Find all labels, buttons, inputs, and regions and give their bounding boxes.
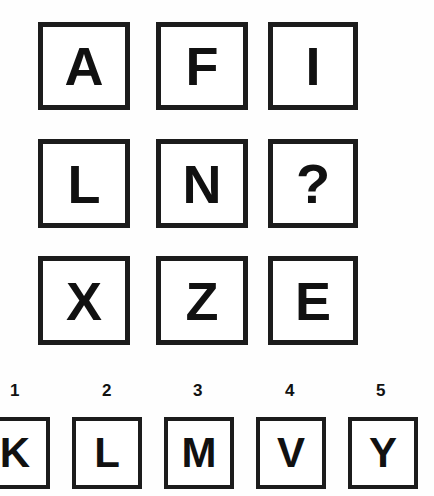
- option-label: K: [0, 432, 30, 474]
- matrix-cell-label: F: [186, 39, 219, 93]
- option-label: L: [94, 432, 120, 474]
- matrix-cell-label: X: [66, 274, 102, 328]
- matrix-cell-r2c1[interactable]: L: [38, 139, 130, 228]
- option-number-5: 5: [376, 382, 416, 399]
- matrix-cell-r1c1[interactable]: A: [38, 22, 130, 110]
- matrix-cell-r1c3[interactable]: I: [268, 22, 358, 110]
- option-box-4[interactable]: V: [256, 417, 326, 489]
- matrix-cell-r3c1[interactable]: X: [38, 256, 130, 345]
- option-box-2[interactable]: L: [72, 417, 142, 489]
- matrix-cell-label: Z: [186, 274, 219, 328]
- matrix-cell-r3c3[interactable]: E: [268, 256, 358, 345]
- puzzle-page: A F I L N ? X Z E 1 2 3: [0, 0, 434, 496]
- option-box-3[interactable]: M: [164, 417, 234, 489]
- matrix-cell-r1c2[interactable]: F: [156, 22, 248, 110]
- matrix-cell-label: E: [295, 274, 331, 328]
- option-number-3: 3: [193, 382, 233, 399]
- matrix-cell-label: L: [68, 157, 101, 211]
- option-box-5[interactable]: Y: [348, 417, 418, 489]
- matrix-cell-r2c2[interactable]: N: [156, 139, 248, 228]
- option-label: M: [182, 432, 217, 474]
- option-box-1[interactable]: K: [0, 417, 50, 489]
- option-number-2: 2: [102, 382, 142, 399]
- option-number-4: 4: [285, 382, 325, 399]
- option-number-1: 1: [10, 382, 50, 399]
- matrix-cell-label: N: [183, 157, 222, 211]
- matrix-cell-label: A: [65, 39, 104, 93]
- matrix-cell-label: I: [305, 39, 320, 93]
- question-mark-icon: ?: [296, 156, 330, 212]
- matrix-cell-missing[interactable]: ?: [268, 139, 358, 228]
- matrix-cell-r3c2[interactable]: Z: [156, 256, 248, 345]
- option-label: Y: [369, 432, 397, 474]
- option-label: V: [277, 432, 305, 474]
